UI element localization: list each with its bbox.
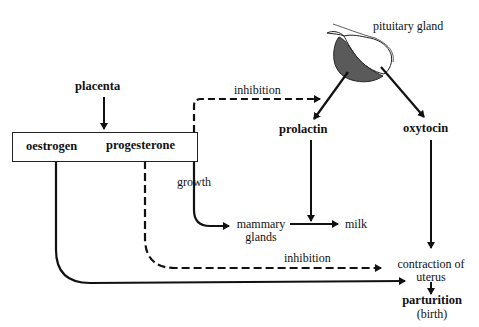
growth-arrow <box>194 161 229 226</box>
contraction-of-uterus-label: contraction of uterus <box>389 258 473 284</box>
inhibition-bottom-label: inhibition <box>284 252 331 265</box>
placenta-label: placenta <box>75 80 120 93</box>
pituitary-gland-label: pituitary gland <box>373 20 443 33</box>
inhibition-top-label: inhibition <box>234 84 281 97</box>
parturition-label: parturition <box>390 294 474 307</box>
oxytocin-label: oxytocin <box>403 122 448 135</box>
progesterone-label: progesterone <box>106 139 175 152</box>
birth-label: (birth) <box>390 308 474 321</box>
growth-label: growth <box>177 176 211 189</box>
pituitary-to-oxytocin-arrow <box>381 67 424 117</box>
pituitary-to-prolactin-arrow <box>314 72 348 119</box>
oestrogen-label: oestrogen <box>26 140 77 153</box>
contraction-line2: uterus <box>389 271 473 284</box>
milk-label: milk <box>345 218 367 231</box>
prolactin-label: prolactin <box>279 123 327 136</box>
mammary-glands-line2: glands <box>231 231 291 244</box>
mammary-glands-label: mammary glands <box>231 218 291 244</box>
